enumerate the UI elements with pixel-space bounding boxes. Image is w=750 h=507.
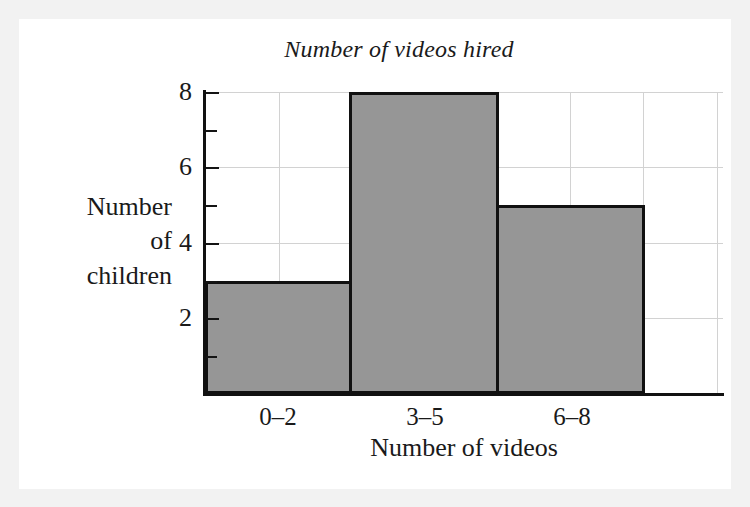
x-tick-label-6-8: 6–8: [492, 404, 652, 429]
y-axis-title-line-1: Number: [14, 190, 172, 224]
y-tick-label-2: 2: [152, 305, 192, 331]
y-tick-label-6: 6: [152, 154, 192, 180]
x-tick-label-3-5: 3–5: [345, 404, 505, 429]
y-tick-4: [206, 243, 219, 245]
y-tick-3: [206, 281, 217, 283]
y-tick-5: [206, 205, 217, 207]
y-axis-title-line-2: of: [14, 224, 172, 258]
bar-0-2: [205, 281, 352, 394]
x-tick-label-0-2: 0–2: [198, 404, 358, 429]
y-tick-6: [206, 167, 219, 169]
bar-3-5: [349, 92, 499, 394]
y-tick-1: [206, 356, 217, 358]
y-axis-title-line-3: children: [14, 259, 172, 293]
chart-title: Number of videos hired: [0, 36, 750, 63]
x-axis-title: Number of videos: [205, 433, 723, 463]
y-tick-8: [206, 92, 219, 94]
gridline-vertical-7: [717, 92, 718, 394]
plot-area: [205, 92, 723, 394]
x-axis-line: [203, 393, 724, 396]
y-axis-title: Number of children: [14, 190, 172, 293]
y-tick-7: [206, 130, 217, 132]
y-tick-label-8: 8: [152, 79, 192, 105]
chart-page: Number of videos hired 8 6 4 2 0–2 3–5 6…: [0, 0, 750, 507]
y-tick-2: [206, 318, 219, 320]
bar-6-8: [496, 205, 645, 394]
